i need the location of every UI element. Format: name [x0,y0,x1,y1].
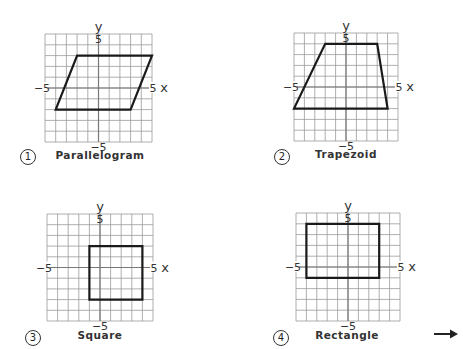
figure-number-badge: 4 [273,330,289,346]
coordinate-grid: y5−5−55x [0,0,463,349]
y-tick-max: 5 [345,212,352,225]
x-axis-label: x [408,259,416,274]
continue-arrow-icon [434,325,458,344]
shape-rectangle [306,224,379,278]
x-tick-min: −5 [285,261,301,274]
x-tick-max: 5 [398,261,405,274]
figure-caption: Rectangle [315,329,379,341]
y-axis-label: y [344,198,352,213]
